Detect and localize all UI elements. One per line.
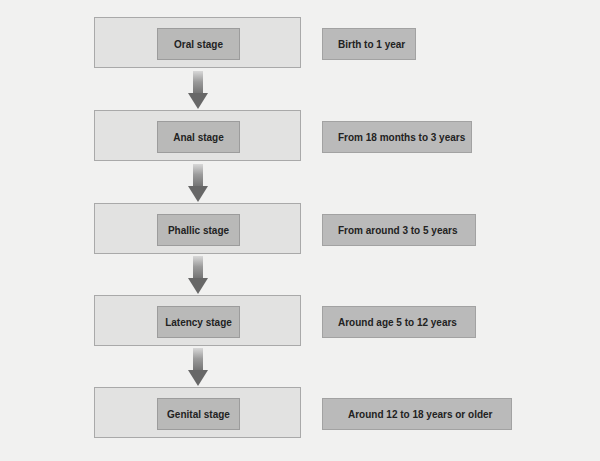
arrow-head [188, 278, 208, 294]
stage-label-genital: Genital stage [157, 398, 240, 430]
stage-block-oral: Oral stage [94, 17, 301, 68]
down-arrow-icon [188, 348, 208, 386]
arrow-shaft [193, 256, 203, 280]
stage-label-latency: Latency stage [157, 306, 240, 338]
down-arrow-icon [188, 164, 208, 202]
age-range-anal: From 18 months to 3 years [322, 121, 472, 153]
stage-label-phallic: Phallic stage [157, 214, 240, 246]
age-range-latency: Around age 5 to 12 years [322, 306, 476, 338]
arrow-shaft [193, 164, 203, 188]
stage-block-anal: Anal stage [94, 110, 301, 161]
arrow-head [188, 370, 208, 386]
arrow-shaft [193, 348, 203, 372]
down-arrow-icon [188, 71, 208, 109]
arrow-head [188, 186, 208, 202]
stage-block-phallic: Phallic stage [94, 203, 301, 254]
arrow-head [188, 93, 208, 109]
age-range-oral: Birth to 1 year [322, 28, 416, 60]
stage-label-anal: Anal stage [157, 121, 240, 153]
arrow-shaft [193, 71, 203, 95]
stage-label-oral: Oral stage [157, 28, 240, 60]
stage-block-latency: Latency stage [94, 295, 301, 346]
age-range-phallic: From around 3 to 5 years [322, 214, 476, 246]
stage-block-genital: Genital stage [94, 387, 301, 438]
age-range-genital: Around 12 to 18 years or older [322, 398, 512, 430]
down-arrow-icon [188, 256, 208, 294]
